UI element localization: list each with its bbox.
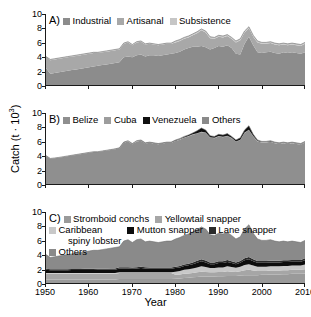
panel-c-letter: C) (49, 212, 61, 224)
legend-label: Caribbean (59, 224, 103, 235)
x-tick-mark-1980 (175, 185, 176, 188)
legend-swatch-icon (117, 18, 124, 25)
legend-item-artisanal[interactable]: Artisanal (117, 15, 163, 26)
y-tick-label-10: 10 (32, 10, 42, 19)
panel-c: 0246810 1950196019701980199020002010 C)S… (45, 212, 305, 284)
figure-stacked-area-catch: Catch (t · 103) 0246810 A)IndustrialArti… (0, 0, 311, 317)
legend-swatch-icon (49, 227, 56, 234)
legend-label: Subsistence (179, 15, 231, 26)
legend-label: Others (59, 246, 88, 257)
panel-c-header: C)Stromboid conchsYellowtail snapperCari… (49, 213, 305, 257)
x-tick-mark-2010 (304, 185, 305, 188)
panel-a-letter: A) (49, 14, 60, 26)
x-tick-mark-1950 (45, 86, 46, 89)
x-tick-mark-2000 (262, 185, 263, 188)
legend-item-cuba[interactable]: Cuba (104, 114, 136, 125)
panel-b-letter: B) (49, 113, 60, 125)
legend-swatch-icon (143, 117, 150, 124)
y-axis-label: Catch (t · 103) (7, 99, 21, 179)
legend-item-industrial[interactable]: Industrial (63, 15, 111, 26)
legend-swatch-icon (63, 117, 70, 124)
panel-a-legend: IndustrialArtisanalSubsistence (63, 15, 237, 26)
x-tick-mark-1990 (218, 86, 219, 89)
legend-item-stromboid-conchs[interactable]: Stromboid conchs (64, 213, 150, 224)
legend-swatch-icon (127, 227, 134, 234)
legend-item-mutton-snapper[interactable]: Mutton snapper (127, 224, 203, 235)
legend-label: Mutton snapper (137, 224, 203, 235)
legend-item-lane-snapper[interactable]: Lane snapper (209, 224, 277, 235)
legend-item-yellowtail-snapper[interactable]: Yellowtail snapper (155, 213, 241, 224)
legend-item-venezuela[interactable]: Venezuela (143, 114, 197, 125)
legend-label: Belize (73, 114, 99, 125)
legend-item-belize[interactable]: Belize (63, 114, 98, 125)
legend-swatch-icon (155, 216, 162, 223)
x-tick-mark-1970 (132, 185, 133, 188)
y-axis-label-exponent: 3 (7, 108, 16, 112)
y-tick-label-10: 10 (32, 208, 42, 217)
y-tick-label-10: 10 (32, 109, 42, 118)
legend-swatch-icon (49, 249, 56, 256)
y-axis-label-paren: ) (9, 105, 21, 109)
x-tick-mark-1960 (88, 86, 89, 89)
legend-item-others[interactable]: Others (49, 246, 87, 257)
legend-item-subsistence[interactable]: Subsistence (170, 15, 231, 26)
x-tick-mark-1950 (45, 185, 46, 188)
legend-label: Stromboid conchs (73, 213, 149, 224)
legend-label: Lane snapper (218, 224, 276, 235)
panel-a: 0246810 A)IndustrialArtisanalSubsistence (45, 14, 305, 86)
panel-a-header: A)IndustrialArtisanalSubsistence (49, 15, 305, 26)
x-tick-mark-1960 (88, 185, 89, 188)
legend-label: Industrial (73, 15, 112, 26)
x-tick-mark-1980 (175, 86, 176, 89)
x-tick-mark-1970 (132, 86, 133, 89)
panel-b-legend: BelizeCubaVenezuelaOthers (63, 114, 246, 125)
legend-label: Cuba (114, 114, 137, 125)
legend-swatch-icon (104, 117, 111, 124)
y-axis-label-text: Catch (t · 10 (9, 112, 21, 173)
legend-label: Others (212, 114, 241, 125)
legend-label: Venezuela (152, 114, 196, 125)
legend-label: Yellowtail snapper (165, 213, 241, 224)
legend-swatch-icon (170, 18, 177, 25)
x-tick-mark-2010 (304, 86, 305, 89)
legend-swatch-icon (209, 227, 216, 234)
legend-item-caribbean[interactable]: Caribbeanspiny lobster (49, 224, 121, 246)
legend-label: Artisanal (127, 15, 164, 26)
panel-c-legend: Stromboid conchsYellowtail snapperCaribb… (49, 213, 282, 257)
panel-b: 0246810 B)BelizeCubaVenezuelaOthers (45, 113, 305, 185)
panel-b-header: B)BelizeCubaVenezuelaOthers (49, 114, 305, 125)
x-axis-label: Year (0, 296, 311, 308)
legend-item-others[interactable]: Others (202, 114, 240, 125)
x-tick-mark-2000 (262, 86, 263, 89)
legend-swatch-icon (63, 18, 70, 25)
legend-swatch-icon (64, 216, 71, 223)
legend-swatch-icon (202, 117, 209, 124)
legend-label-line2: spiny lobster (68, 235, 121, 246)
x-tick-mark-1990 (218, 185, 219, 188)
